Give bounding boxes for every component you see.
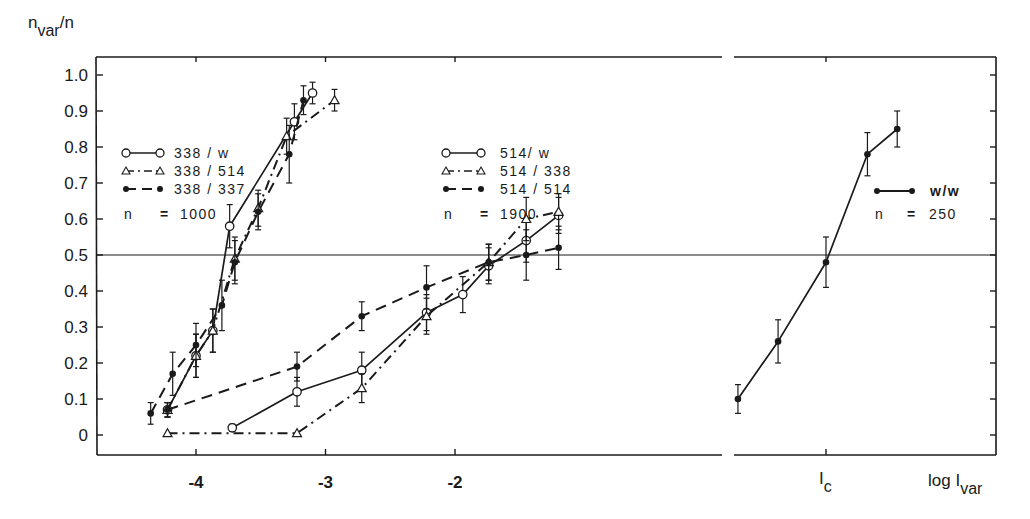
x-axis-tick-labels: -4-3-2	[188, 473, 462, 492]
y-tick-label: 0.2	[64, 354, 88, 373]
x-tick-label: -3	[318, 473, 333, 492]
legend-338: 338 / w 338 / 514 338 / 337 n = 1000	[122, 145, 246, 222]
y-axis-title: nvar/n	[28, 13, 74, 39]
data-point	[554, 207, 563, 215]
chart: 00.10.20.30.40.50.60.70.80.91.0 -4-3-2 n…	[0, 0, 1030, 519]
svg-text:250: 250	[929, 206, 957, 222]
y-tick-label: 0.3	[64, 318, 88, 337]
data-point	[293, 388, 301, 396]
svg-text:338 / 337: 338 / 337	[174, 181, 246, 197]
data-point	[300, 97, 307, 104]
data-point	[294, 363, 301, 370]
data-point	[459, 290, 467, 298]
series-338-514	[163, 89, 339, 417]
legend-entry-514-514: 514 / 514	[443, 181, 572, 197]
data-point	[225, 222, 233, 230]
data-point	[523, 252, 530, 259]
data-point	[286, 151, 293, 158]
legend-entry-338-337: 338 / 337	[123, 181, 246, 197]
y-tick-label: 0.5	[64, 246, 88, 265]
x-tick-label: -4	[188, 473, 204, 492]
y-tick-label: 0.7	[64, 174, 88, 193]
data-point	[308, 89, 316, 97]
data-point	[330, 96, 339, 104]
legend-entry-338-514: 338 / 514	[122, 163, 246, 179]
data-point	[193, 342, 200, 349]
data-point	[219, 302, 226, 309]
legend-entry-514-338: 514 / 338	[442, 163, 572, 179]
svg-text:338 / 514: 338 / 514	[174, 163, 246, 179]
svg-text:514 / 338: 514 / 338	[500, 163, 572, 179]
svg-text:n: n	[444, 206, 453, 222]
data-point	[147, 410, 154, 417]
y-tick-label: 0.9	[64, 102, 88, 121]
svg-text:=: =	[160, 206, 170, 222]
legend-ww: w/w n = 250	[874, 183, 960, 222]
data-point	[255, 209, 262, 216]
legend-n-338: n = 1000	[124, 206, 217, 222]
series-w-w	[735, 111, 901, 413]
svg-text:1900: 1900	[500, 206, 537, 222]
data-point	[232, 259, 239, 266]
data-point	[894, 126, 901, 133]
svg-text:n: n	[124, 206, 133, 222]
x-tick-label: -2	[447, 473, 462, 492]
svg-text:1000: 1000	[180, 206, 217, 222]
y-tick-label: 0	[79, 426, 88, 445]
y-axis-tick-labels: 00.10.20.30.40.50.60.70.80.91.0	[64, 66, 88, 445]
legend-514: 514/ w 514 / 338 514 / 514 n = 1900	[442, 145, 572, 222]
legend-n-ww: n = 250	[875, 206, 957, 222]
svg-text:514 / 514: 514 / 514	[500, 181, 572, 197]
legend-entry-514-w: 514/ w	[442, 145, 550, 161]
y-tick-label: 0.8	[64, 138, 88, 157]
data-point	[228, 424, 236, 432]
legend-entry-338-w: 338 / w	[122, 145, 230, 161]
y-tick-label: 0.6	[64, 210, 88, 229]
x-axis-title: log Ivar	[928, 471, 983, 497]
svg-text:514/ w: 514/ w	[500, 145, 550, 161]
data-point	[357, 384, 366, 392]
data-point	[735, 396, 742, 403]
plot-frame	[96, 57, 996, 455]
data-point	[358, 313, 365, 320]
data-point	[485, 259, 492, 266]
data-point	[775, 338, 782, 345]
svg-text:w/w: w/w	[929, 183, 960, 199]
y-tick-label: 0.4	[64, 282, 88, 301]
data-point	[358, 366, 366, 374]
data-series	[147, 82, 900, 437]
data-point	[555, 245, 562, 252]
svg-text:=: =	[480, 206, 490, 222]
data-point	[823, 259, 830, 266]
svg-text:338 / w: 338 / w	[174, 145, 230, 161]
ic-tick-label: Ic	[819, 469, 832, 495]
y-tick-label: 1.0	[64, 66, 88, 85]
data-point	[423, 284, 430, 291]
svg-text:=: =	[907, 206, 917, 222]
data-point	[169, 371, 176, 378]
series-514-w	[228, 197, 563, 432]
legend-entry-w-w: w/w	[874, 183, 960, 199]
legend-n-514: n = 1900	[444, 206, 537, 222]
data-point	[164, 407, 171, 414]
y-tick-label: 0.1	[64, 390, 88, 409]
svg-text:n: n	[875, 206, 884, 222]
data-point	[864, 151, 871, 158]
